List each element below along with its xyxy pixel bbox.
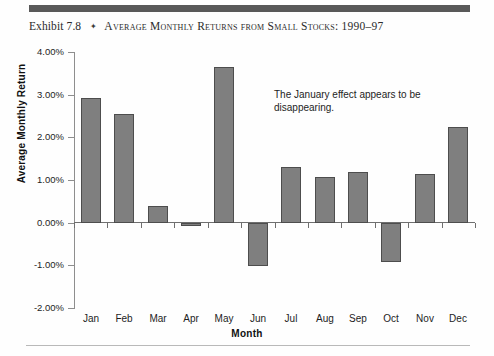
y-axis-title: Average Monthly Return — [16, 59, 27, 189]
y-axis-tick-label: -1.00% — [20, 259, 64, 270]
y-axis-tick — [68, 137, 74, 138]
exhibit-page: Exhibit 7.8✦Average Monthly Returns from… — [0, 0, 494, 356]
y-axis-tick-label: -2.00% — [20, 302, 64, 313]
y-axis-tick-label-wrap: 2.00% — [20, 131, 64, 143]
x-axis-tick — [275, 223, 276, 228]
y-axis-tick-label: 2.00% — [20, 131, 64, 142]
y-axis-tick-label-wrap: -2.00% — [20, 302, 64, 314]
y-axis-tick — [68, 308, 74, 309]
x-axis-tick — [141, 223, 142, 228]
bar — [281, 167, 301, 223]
bar — [181, 223, 201, 226]
y-axis-tick-label: 1.00% — [20, 174, 64, 185]
x-axis-tick — [174, 223, 175, 228]
x-axis-tick — [375, 223, 376, 228]
bar — [148, 206, 168, 223]
diamond-icon: ✦ — [90, 22, 97, 31]
bar — [348, 172, 368, 223]
y-axis-tick — [68, 180, 74, 181]
x-axis-tick — [341, 223, 342, 228]
bar — [415, 174, 435, 223]
exhibit-title: Average Monthly Returns from Small Stock… — [104, 20, 383, 32]
y-axis-tick — [68, 265, 74, 266]
chart-annotation: The January effect appears to be disappe… — [274, 88, 454, 114]
y-axis-tick-label: 3.00% — [20, 89, 64, 100]
bar — [81, 98, 101, 223]
y-axis-tick-label-wrap: 1.00% — [20, 174, 64, 186]
y-axis-tick-label-wrap: 0.00% — [20, 217, 64, 229]
y-axis-tick — [68, 95, 74, 96]
x-axis-tick-label: Dec — [438, 313, 478, 324]
bar — [214, 67, 234, 223]
bar — [114, 114, 134, 223]
x-axis-tick — [408, 223, 409, 228]
y-axis-tick-label-wrap: 3.00% — [20, 89, 64, 101]
x-axis-tick — [308, 223, 309, 228]
bar — [248, 223, 268, 266]
y-axis-tick-label-wrap: 4.00% — [20, 46, 64, 58]
y-axis-tick-label: 4.00% — [20, 46, 64, 57]
x-axis-tick — [107, 223, 108, 228]
y-axis-tick-label: 0.00% — [20, 217, 64, 228]
x-axis-tick — [74, 223, 75, 228]
exhibit-number: Exhibit 7.8 — [29, 20, 81, 32]
x-axis-tick — [475, 223, 476, 228]
bar — [315, 177, 335, 223]
x-axis-title: Month — [0, 328, 494, 339]
x-axis-tick — [442, 223, 443, 228]
y-axis-tick-label-wrap: -1.00% — [20, 259, 64, 271]
x-axis-tick — [241, 223, 242, 228]
bar — [448, 127, 468, 223]
exhibit-caption: Exhibit 7.8✦Average Monthly Returns from… — [29, 20, 384, 32]
y-axis-line — [74, 52, 75, 309]
bar — [381, 223, 401, 262]
top-rule-divider — [29, 5, 470, 12]
x-axis-tick — [208, 223, 209, 228]
y-axis-tick — [68, 52, 74, 53]
bottom-rule-divider — [26, 345, 470, 346]
